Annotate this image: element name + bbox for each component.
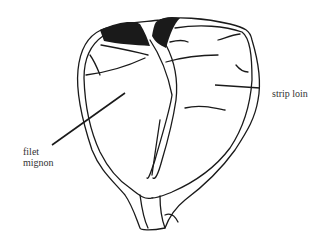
filet-label-line2: mignon bbox=[23, 157, 54, 168]
fat-inner-line bbox=[84, 36, 152, 199]
filet-label-line1: filet bbox=[23, 146, 54, 157]
fat-inner-line-right bbox=[152, 26, 252, 198]
fat-patch-right bbox=[152, 17, 180, 48]
strip-loin-label: strip loin bbox=[272, 88, 308, 99]
filet-mignon-label: filet mignon bbox=[23, 146, 54, 168]
strip-loin-leader bbox=[215, 85, 260, 88]
steak-illustration bbox=[0, 0, 332, 242]
fat-patch-left bbox=[100, 22, 150, 46]
bone-right bbox=[153, 45, 177, 178]
